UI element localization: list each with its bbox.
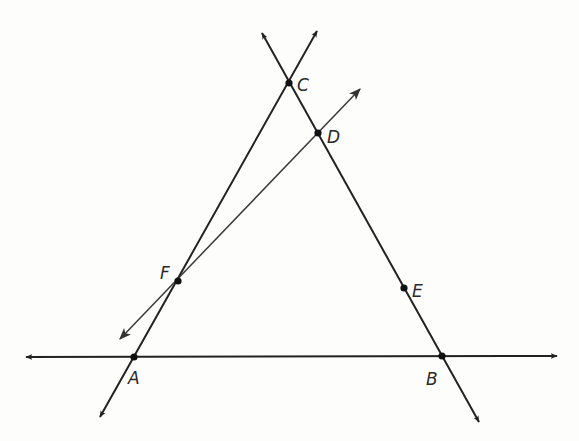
line-FD [120,89,360,339]
point-label-f: F [160,263,170,283]
point-c [285,79,292,86]
point-label-b: B [426,369,438,389]
point-a [130,353,137,360]
point-e [400,284,407,291]
point-label-d: D [327,127,340,147]
point-label-e: E [412,281,423,301]
point-label-a: A [127,368,140,388]
point-b [438,352,445,359]
lines-group [26,31,557,422]
labels-group: ABCDEF [127,75,438,389]
point-label-c: C [297,75,309,95]
geometry-diagram: ABCDEF [0,0,579,441]
line-AB [26,356,557,357]
points-group [130,79,445,360]
point-d [314,129,321,136]
point-f [174,277,181,284]
line-BC [262,33,479,422]
